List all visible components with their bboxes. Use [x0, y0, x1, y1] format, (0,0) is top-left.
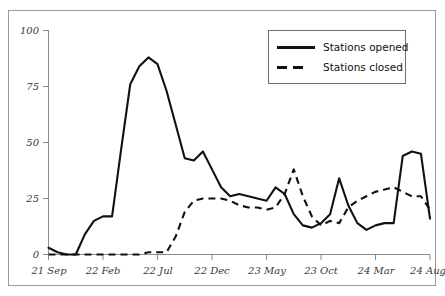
x-tick-label-4: 23 May [247, 265, 286, 276]
y-tick-label-100: 100 [20, 25, 40, 36]
y-tick-label-75: 75 [26, 81, 39, 92]
legend-label-stations-opened: Stations opened [323, 41, 408, 53]
x-tick-label-6: 24 Mar [357, 265, 396, 276]
y-tick-label-25: 25 [25, 193, 39, 204]
x-tick-label-7: 24 Aug [409, 265, 445, 276]
legend-label-stations-closed: Stations closed [323, 61, 403, 73]
y-tick-label-0: 0 [33, 249, 40, 260]
x-tick-label-1: 22 Feb [85, 265, 121, 276]
x-tick-label-5: 23 Oct [303, 265, 339, 276]
y-axis-ticks [43, 31, 49, 255]
x-tick-label-0: 21 Sep [30, 265, 67, 276]
legend-item-stations-opened: Stations opened [277, 37, 397, 57]
series-line-stations-closed [49, 169, 431, 254]
chart-figure: 100 75 50 25 0 21 Sep 22 Feb 22 Jul 22 D… [0, 0, 445, 296]
legend-item-stations-closed: Stations closed [277, 57, 397, 77]
legend-swatch-dashed-line-icon [277, 61, 315, 73]
x-tick-label-2: 22 Jul [142, 265, 173, 276]
x-tick-label-3: 22 Dec [193, 265, 230, 276]
x-axis-ticks [49, 255, 431, 261]
series-line-stations-opened [49, 57, 431, 254]
y-tick-label-50: 50 [26, 137, 39, 148]
chart-legend: Stations opened Stations closed [268, 30, 406, 84]
legend-swatch-solid-line-icon [277, 41, 315, 53]
